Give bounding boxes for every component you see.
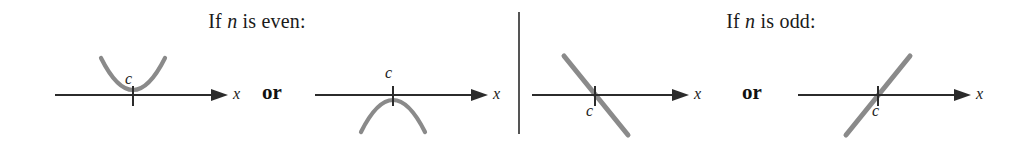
panel-even-heading: If n is even: (0, 8, 514, 34)
axis-label-x: x (976, 85, 983, 103)
panel-odd-heading-suffix: is odd: (755, 10, 816, 32)
panel-even-heading-prefix: If (208, 10, 227, 32)
panel-even-heading-variable: n (227, 10, 237, 32)
panel-odd-heading-variable: n (745, 10, 755, 32)
point-label-c: c (385, 64, 392, 82)
connector-or-even: or (262, 82, 282, 103)
curve-parabola-up (101, 58, 165, 90)
point-label-c: c (125, 70, 132, 88)
figure-root: If n is even: c x or (0, 0, 1028, 145)
axis-arrowhead-icon (211, 89, 228, 101)
diagram-even-parabola-up: c x (45, 40, 245, 145)
diagram-odd-line-down: c x (524, 40, 724, 145)
point-label-c: c (586, 102, 593, 120)
axis-arrowhead-icon (954, 89, 971, 101)
point-label-c: c (872, 102, 879, 120)
panel-even-heading-suffix: is even: (237, 10, 305, 32)
axis-label-x: x (233, 85, 240, 103)
axis-arrowhead-icon (471, 89, 488, 101)
axis-label-x: x (694, 85, 701, 103)
axis-label-x: x (493, 85, 500, 103)
panel-n-even: If n is even: c x or (0, 0, 514, 145)
panel-odd-heading-prefix: If (726, 10, 745, 32)
axis-arrowhead-icon (672, 89, 689, 101)
diagram-even-parabola-down: c x (305, 40, 505, 145)
panel-odd-heading: If n is odd: (514, 8, 1028, 34)
diagram-odd-line-up: c x (790, 40, 990, 145)
connector-or-odd: or (742, 82, 762, 103)
